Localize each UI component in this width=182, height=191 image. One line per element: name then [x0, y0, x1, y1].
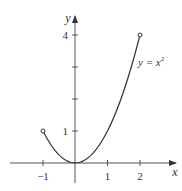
equation-label: y = x2: [137, 55, 165, 68]
equation-exponent: 2: [161, 55, 165, 63]
x-axis-label: x: [171, 165, 178, 179]
equation-text: y = x: [137, 56, 161, 68]
x-tick-label-2: 2: [137, 170, 143, 182]
x-tick-label-1: 1: [105, 170, 111, 182]
open-endpoint-left: [41, 129, 45, 133]
y-tick-label-4: 4: [63, 29, 69, 41]
parabola-curve: [43, 35, 140, 163]
y-tick-label-1: 1: [63, 125, 69, 137]
y-axis-label: y: [64, 11, 71, 25]
open-endpoint-right: [138, 33, 142, 37]
x-tick-label-neg1: −1: [37, 170, 49, 182]
function-graph: −1 1 2 1 4 x y y = x2: [0, 0, 182, 191]
